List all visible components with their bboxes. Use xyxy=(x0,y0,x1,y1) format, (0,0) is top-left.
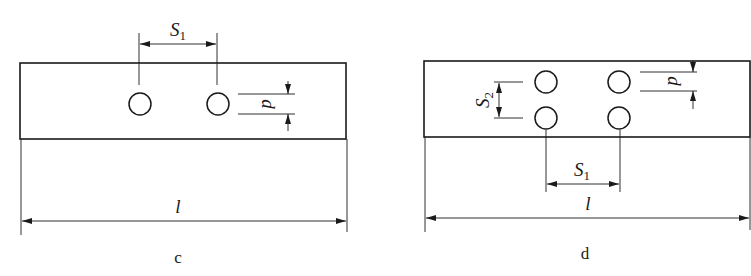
diameter-label: d xyxy=(258,99,279,109)
hole xyxy=(608,71,630,93)
s1-label: S1 xyxy=(170,19,186,43)
hole xyxy=(207,93,229,115)
bolt-plate-diagrams: S1 d l c S2 xyxy=(0,0,751,276)
s1-dimension: S1 xyxy=(139,19,217,85)
diameter-dimension: d xyxy=(640,61,697,109)
length-label: l xyxy=(175,196,180,217)
figure-c: S1 d l c xyxy=(20,19,347,267)
length-dimension: l xyxy=(425,137,750,232)
hole xyxy=(535,71,557,93)
diameter-label: d xyxy=(664,76,685,86)
hole xyxy=(608,107,630,129)
plate-outline xyxy=(20,63,346,139)
s1-dimension: S1 xyxy=(546,130,620,192)
s2-dimension: S2 xyxy=(472,82,523,118)
diameter-dimension: d xyxy=(238,81,295,131)
s1-label: S1 xyxy=(574,159,590,183)
s2-label: S2 xyxy=(472,92,496,108)
hole xyxy=(535,107,557,129)
figure-caption: d xyxy=(581,244,590,263)
length-dimension: l xyxy=(21,139,347,235)
length-label: l xyxy=(585,193,590,214)
hole xyxy=(129,93,151,115)
figure-caption: c xyxy=(174,248,182,267)
figure-d: S2 d S1 l d xyxy=(424,61,750,263)
